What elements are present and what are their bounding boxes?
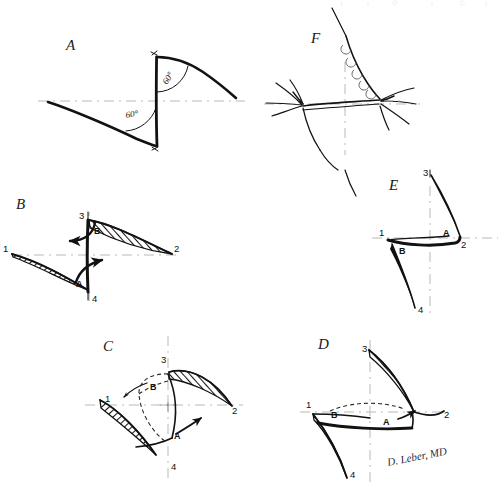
panel-c-point-1: 1 (105, 393, 110, 404)
panel-d-point-4: 4 (350, 469, 355, 480)
panel-d-point-1: 1 (306, 399, 311, 410)
panel-e-point-2: 2 (461, 239, 466, 250)
panel-e-flap-label-b: B (399, 246, 406, 256)
panel-e-point-4: 4 (418, 304, 423, 315)
panel-c-point-2: 2 (232, 405, 237, 416)
panel-e-letter: E (388, 177, 398, 193)
panel-c-letter: C (103, 338, 114, 354)
panel-b-flap-label-a: A (76, 279, 83, 289)
panel-c-flap-label-a: A (174, 431, 181, 441)
panel-f-letter: F (310, 30, 321, 46)
panel-b-point-1: 1 (3, 243, 8, 254)
panel-b-point-3: 3 (79, 210, 84, 221)
panel-b-central-limb (87, 220, 88, 292)
panel-d-point-2: 2 (444, 409, 449, 420)
panel-a-angle-lower: 60° (125, 108, 139, 120)
panel-e-point-1: 1 (379, 227, 384, 238)
panel-b-point-4: 4 (92, 293, 97, 304)
panel-c-point-3: 3 (161, 354, 166, 365)
panel-b-flap-label-b: B (94, 226, 101, 236)
panel-e-point-3: 3 (423, 167, 428, 178)
panel-a-central-limb (156, 57, 157, 146)
panel-a-letter: A (65, 37, 76, 53)
panel-d-flap-label-a: A (383, 417, 390, 427)
panel-d-point-3: 3 (362, 343, 367, 354)
panel-b-point-2: 2 (174, 243, 179, 254)
panel-e-flap-label-a: A (443, 228, 450, 238)
panel-c-point-4: 4 (171, 461, 176, 472)
panel-d-letter: D (317, 336, 329, 352)
panel-c-flap-label-b: B (150, 382, 157, 392)
z-plasty-figure: A 60° 60° B 3 (0, 0, 502, 493)
panel-b-letter: B (16, 196, 25, 212)
panel-d-flap-label-b: B (331, 410, 338, 420)
